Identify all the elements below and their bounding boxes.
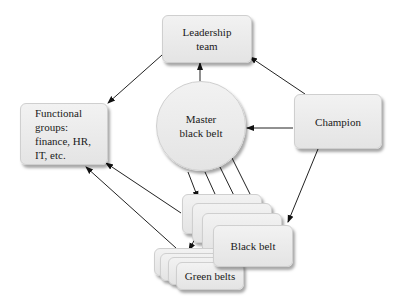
leadership-team-node: Leadership team	[162, 15, 252, 63]
functional-groups-node: Functional groups: finance, HR, IT, etc.	[20, 103, 108, 165]
champion-label: Champion	[315, 115, 361, 129]
champion-node: Champion	[294, 94, 382, 149]
master-black-belt-label: Master black belt	[179, 112, 222, 140]
leadership-team-label: Leadership team	[183, 25, 232, 53]
green-belts-label: Green belts	[185, 269, 235, 283]
master-black-belt-node: Master black belt	[156, 81, 246, 171]
black-belt-label: Black belt	[231, 239, 276, 253]
black-belt-node: Black belt	[213, 225, 293, 267]
functional-groups-label: Functional groups: finance, HR, IT, etc.	[35, 106, 91, 162]
